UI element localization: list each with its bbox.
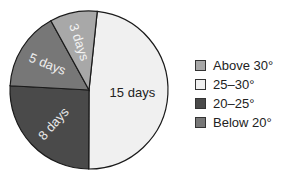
legend-swatch (195, 98, 206, 109)
legend-label: 20–25° (213, 96, 254, 111)
legend-label: Above 30° (213, 58, 273, 73)
legend-item-above-30: Above 30° (195, 56, 273, 75)
legend-label: Below 20° (213, 115, 272, 130)
slice-label: 15 days (110, 85, 156, 100)
legend-swatch (195, 79, 206, 90)
legend-swatch (195, 60, 206, 71)
legend-item-20-25: 20–25° (195, 94, 273, 113)
legend-swatch (195, 117, 206, 128)
legend-label: 25–30° (213, 77, 254, 92)
legend: Above 30° 25–30° 20–25° Below 20° (195, 56, 273, 132)
legend-item-25-30: 25–30° (195, 75, 273, 94)
pie-chart: 15 days8 days5 days3 days (0, 0, 190, 176)
legend-item-below-20: Below 20° (195, 113, 273, 132)
